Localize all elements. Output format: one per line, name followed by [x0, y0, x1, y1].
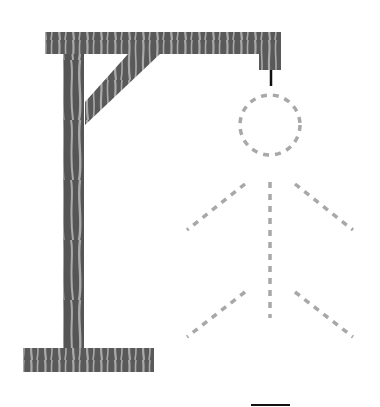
right-leg-outline — [295, 292, 353, 337]
gallows-hook-block — [259, 54, 281, 70]
gallows-brace — [85, 54, 160, 125]
gallows-drawing — [0, 0, 380, 407]
gallows-base — [23, 348, 154, 372]
gallows-post — [63, 54, 84, 348]
right-arm-outline — [295, 184, 353, 230]
hangman-board — [0, 0, 380, 407]
left-leg-outline — [187, 292, 245, 337]
gallows-top-beam — [45, 32, 281, 54]
left-arm-outline — [187, 184, 245, 230]
head-outline — [240, 95, 300, 155]
letter-blank — [251, 404, 290, 406]
